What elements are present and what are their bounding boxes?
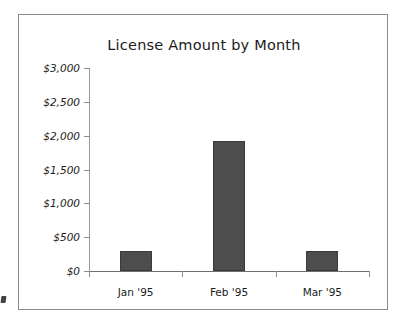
bar [306, 251, 338, 271]
y-axis-tick-mark [84, 237, 90, 238]
y-axis-tick-label: $1,500 [43, 164, 80, 176]
y-axis-tick-label: $500 [53, 231, 80, 243]
y-axis-tick-mark [84, 203, 90, 204]
chart-title: License Amount by Month [19, 37, 389, 53]
bar [213, 141, 245, 271]
x-axis-tick-label: Feb '95 [210, 286, 248, 298]
chart-frame: License Amount by Month $3,000$2,500$2,0… [18, 14, 388, 310]
y-axis-tick-label: $3,000 [43, 62, 80, 74]
bar [120, 251, 152, 271]
x-axis-line [89, 271, 369, 272]
x-axis-tick-mark [276, 271, 277, 277]
x-axis-tick-label: Jan '95 [118, 286, 154, 298]
y-axis-tick-mark [84, 102, 90, 103]
y-axis-tick-mark [84, 170, 90, 171]
x-axis-tick-mark [369, 271, 370, 277]
y-axis-tick-label: $1,000 [43, 197, 80, 209]
y-axis-tick-mark [84, 68, 90, 69]
scan-artifact-speck [1, 296, 7, 303]
y-axis-tick-mark [84, 136, 90, 137]
y-axis-tick-label: $2,500 [43, 96, 80, 108]
y-axis-tick-label: $0 [67, 265, 80, 277]
y-axis-tick-label: $2,000 [43, 130, 80, 142]
x-axis-tick-label: Mar '95 [303, 286, 342, 298]
x-axis-tick-mark [182, 271, 183, 277]
x-axis-tick-mark [89, 271, 90, 277]
plot-area: $3,000$2,500$2,000$1,500$1,000$500$0 Jan… [89, 68, 369, 271]
